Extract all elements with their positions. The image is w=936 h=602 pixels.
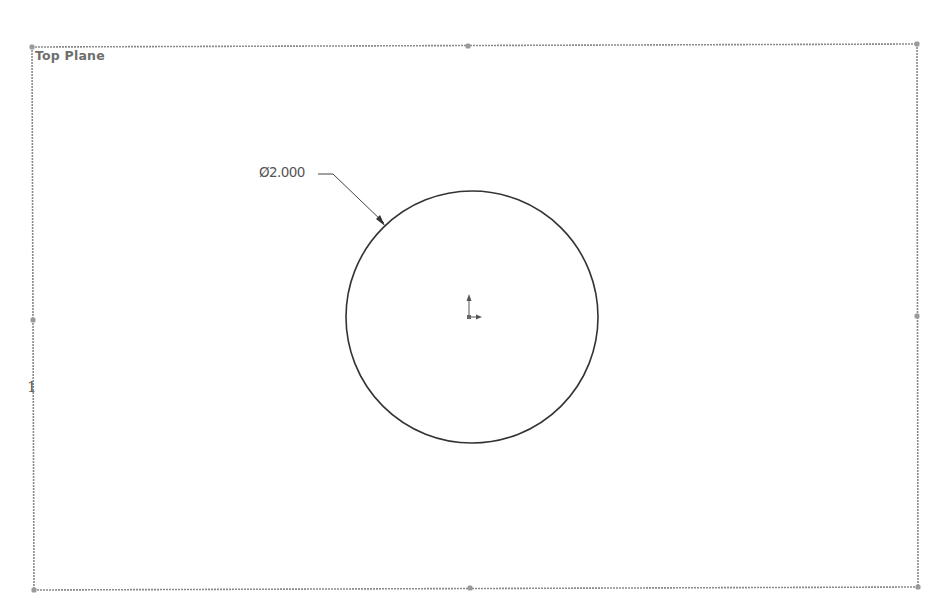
stray-mark: 1 bbox=[27, 380, 37, 395]
diameter-dimension[interactable]: Ø2.000 bbox=[259, 166, 305, 180]
dimension-leader[interactable] bbox=[318, 174, 385, 226]
sketch-origin-icon bbox=[467, 294, 483, 320]
plane-handle-right-mid[interactable] bbox=[915, 314, 920, 319]
plane-handle-top-left[interactable] bbox=[30, 45, 35, 50]
plane-handle-top-mid[interactable] bbox=[466, 44, 471, 49]
plane-handle-bottom-mid[interactable] bbox=[468, 586, 473, 591]
plane-handle-bottom-left[interactable] bbox=[32, 588, 37, 593]
plane-handle-bottom-right[interactable] bbox=[916, 585, 921, 590]
graphics-area[interactable]: Top Plane Ø2.000 1 bbox=[0, 0, 936, 602]
plane-handle-left-mid[interactable] bbox=[31, 318, 36, 323]
sketch-canvas[interactable] bbox=[0, 0, 936, 602]
plane-label: Top Plane bbox=[35, 50, 105, 63]
plane-handle-top-right[interactable] bbox=[915, 42, 920, 47]
